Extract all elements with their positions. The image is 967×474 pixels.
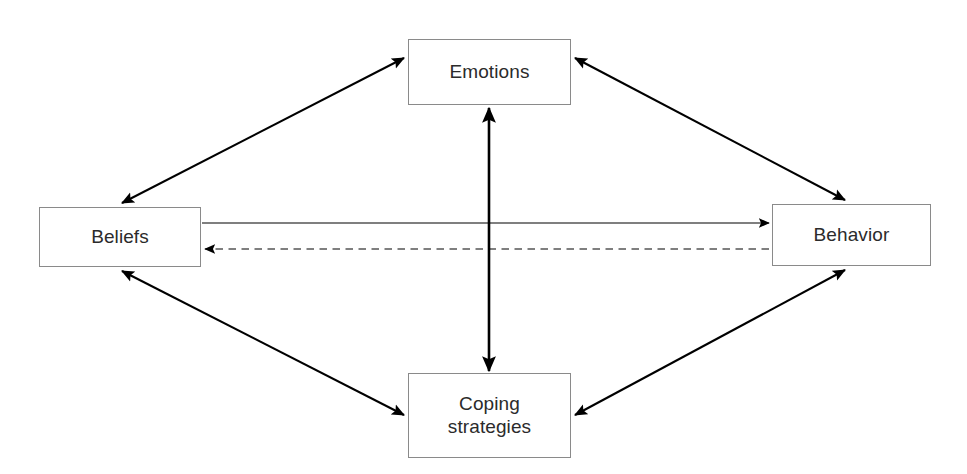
edge-beliefs-emotions (122, 58, 404, 203)
edge-coping-behavior (575, 270, 845, 415)
node-emotions-label: Emotions (445, 61, 533, 83)
edge-emotions-behavior (575, 58, 845, 200)
node-behavior[interactable]: Behavior (772, 204, 931, 266)
node-beliefs-label: Beliefs (87, 226, 153, 248)
edge-beliefs-coping (122, 271, 404, 415)
node-coping-strategies-label: Coping strategies (444, 393, 535, 438)
node-coping-strategies[interactable]: Coping strategies (408, 373, 571, 458)
node-behavior-label: Behavior (810, 224, 894, 246)
node-emotions[interactable]: Emotions (408, 39, 571, 105)
node-beliefs[interactable]: Beliefs (39, 207, 201, 267)
diagram-canvas: Emotions Beliefs Behavior Coping strateg… (0, 0, 967, 474)
